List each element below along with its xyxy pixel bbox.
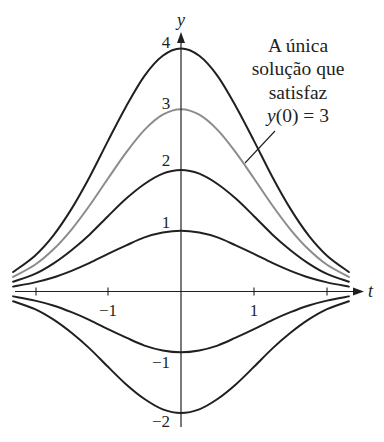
y-axis: y 4 3 2 1 −1 −2 [152, 10, 185, 431]
y-tick-label: −2 [152, 412, 170, 431]
annotation-equation: y(0) = 3 [265, 105, 329, 127]
x-tick-label: −1 [99, 301, 117, 320]
annotation-line: solução que [252, 58, 345, 79]
annotation-line: A única [268, 35, 328, 56]
y-tick-label: 3 [162, 94, 171, 113]
y-tick-label: −1 [152, 353, 170, 372]
y-axis-label: y [175, 10, 185, 30]
x-axis: −1 1 t [15, 281, 374, 320]
y-axis-arrow-icon [177, 32, 185, 43]
x-tick-label: 1 [250, 301, 259, 320]
annotation-condition: (0) = 3 [276, 105, 329, 127]
y-tick-label: 4 [162, 33, 171, 52]
y-tick-label: 1 [162, 213, 171, 232]
annotation: A única solução que satisfaz y(0) = 3 [245, 35, 344, 163]
solution-curves-figure: −1 1 t y 4 3 2 1 −1 −2 A única solução q… [0, 0, 384, 442]
annotation-leader-line [245, 131, 275, 163]
x-axis-arrow-icon [353, 288, 364, 296]
y-tick-label: 2 [162, 151, 171, 170]
annotation-variable: y [265, 105, 276, 126]
x-axis-label: t [368, 281, 374, 301]
annotation-line: satisfaz [269, 82, 328, 103]
